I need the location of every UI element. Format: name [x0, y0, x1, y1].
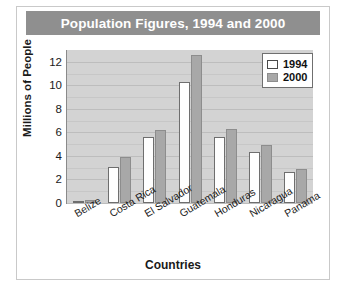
y-axis-tick-label: 8: [36, 103, 62, 115]
legend-item: 1994: [267, 58, 307, 70]
legend-swatch-2000-icon: [267, 73, 278, 82]
x-axis-label: Countries: [0, 258, 346, 272]
bar-guatemala-2000: [191, 55, 202, 203]
legend-label-2000: 2000: [283, 72, 307, 83]
legend-label-1994: 1994: [283, 59, 307, 70]
bar-honduras-2000: [226, 129, 237, 203]
y-axis-tick-label: 10: [36, 79, 62, 91]
y-axis-tick-label: 0: [36, 197, 62, 209]
y-axis-tick-label: 2: [36, 173, 62, 185]
chart-title-banner: Population Figures, 1994 and 2000: [26, 11, 320, 35]
legend-item: 2000: [267, 71, 307, 83]
chart-figure: Population Figures, 1994 and 2000 Millio…: [0, 0, 346, 292]
y-axis-tick-label: 4: [36, 150, 62, 162]
chart-legend: 1994 2000: [262, 53, 313, 88]
bar-costa-rica-1994: [108, 167, 119, 203]
y-axis-label: Millions of People: [21, 28, 33, 148]
y-axis-tick-label: 6: [36, 126, 62, 138]
legend-swatch-1994-icon: [267, 60, 278, 69]
y-axis-tick-label: 12: [36, 56, 62, 68]
chart-title: Population Figures, 1994 and 2000: [61, 16, 286, 31]
